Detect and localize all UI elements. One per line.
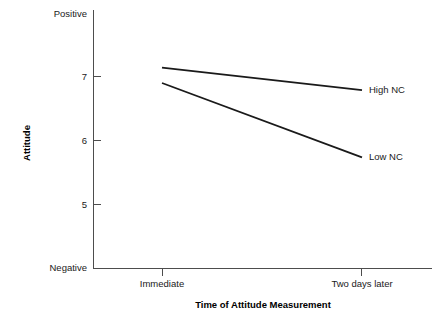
x-category-label-two-days-later: Two days later: [331, 278, 392, 289]
y-tick-label-6: 6: [82, 135, 87, 146]
y-axis-bottom-label-negative: Negative: [50, 262, 88, 273]
series-label-high-nc: High NC: [369, 84, 405, 95]
series-line-low-nc: [162, 83, 362, 157]
attitude-line-chart: 7 6 5 Positive Negative Attitude Immedia…: [0, 0, 448, 315]
x-category-label-immediate: Immediate: [140, 278, 184, 289]
series-line-high-nc: [162, 68, 362, 90]
chart-canvas: 7 6 5 Positive Negative Attitude Immedia…: [0, 0, 448, 315]
series-label-low-nc: Low NC: [369, 151, 403, 162]
y-axis-top-label-positive: Positive: [54, 8, 87, 19]
y-tick-label-5: 5: [82, 199, 87, 210]
y-tick-label-7: 7: [82, 71, 87, 82]
y-axis-title: Attitude: [21, 125, 32, 161]
x-axis-title: Time of Attitude Measurement: [195, 299, 331, 310]
